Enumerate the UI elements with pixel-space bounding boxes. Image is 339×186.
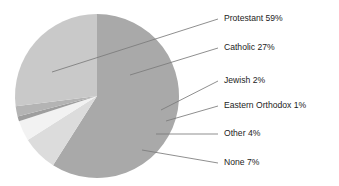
pie-slice-catholic[interactable]: [15, 14, 97, 106]
pie-label-none: None 7%: [224, 157, 260, 167]
pie-label-catholic: Catholic 27%: [224, 42, 275, 52]
pie-label-protestant: Protestant 59%: [224, 13, 283, 23]
pie-chart-canvas: Protestant 59% Catholic 27% Jewish 2% Ea…: [0, 0, 339, 186]
pie-label-eastern-orthodox: Eastern Orthodox 1%: [224, 100, 307, 110]
pie-label-other: Other 4%: [224, 128, 261, 138]
pie-slices: [15, 14, 179, 178]
pie-labels: Protestant 59% Catholic 27% Jewish 2% Ea…: [224, 13, 307, 167]
pie-label-jewish: Jewish 2%: [224, 75, 265, 85]
pie-chart-figure: Protestant 59% Catholic 27% Jewish 2% Ea…: [0, 0, 339, 186]
leader-line-none: [142, 150, 218, 163]
